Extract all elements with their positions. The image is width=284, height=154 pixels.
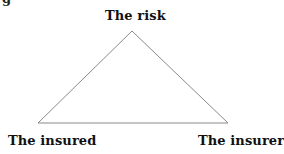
triangle-diagram	[0, 0, 284, 154]
node-label-insurer: The insurer	[198, 133, 284, 148]
node-label-insured: The insured	[8, 133, 96, 148]
node-label-risk: The risk	[105, 8, 166, 23]
triangle-shape	[38, 31, 228, 123]
